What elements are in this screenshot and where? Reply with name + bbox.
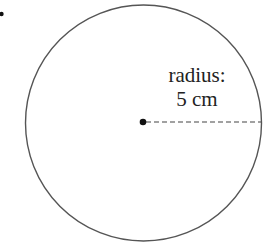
bullet-dot: [0, 12, 4, 16]
radius-label-line2: 5 cm: [176, 87, 217, 111]
radius-label-line1: radius:: [168, 63, 225, 87]
circle-diagram: radius: 5 cm: [0, 0, 269, 248]
center-dot: [140, 119, 147, 126]
